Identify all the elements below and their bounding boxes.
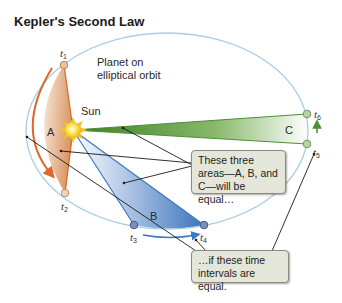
sun-label: Sun (81, 105, 101, 117)
label-t4: t4 (200, 231, 207, 244)
planet-label-line2: elliptical orbit (97, 69, 161, 81)
callout-equal-intervals: …if these time intervals are equal. (191, 250, 289, 283)
planet-t2 (61, 189, 69, 197)
area-b-label: B (150, 210, 157, 222)
label-t6: t6 (314, 108, 321, 121)
planet-t1 (60, 61, 68, 69)
callout-areas-line: areas—A, B, and (198, 167, 279, 180)
callout-areas-line: These three (198, 154, 279, 167)
planet-t4 (200, 221, 208, 229)
planet-t5 (303, 140, 311, 148)
callout-intervals-line: intervals are equal. (198, 267, 282, 293)
label-t2: t2 (61, 200, 68, 213)
label-t5: t5 (313, 146, 320, 159)
planet-label-line1: Planet on (97, 56, 143, 68)
area-c-label: C (285, 124, 293, 136)
label-t1: t1 (60, 47, 67, 60)
diagram-title: Kepler's Second Law (14, 14, 145, 29)
callout-equal-areas: These three areas—A, B, and C—will be eq… (191, 150, 286, 194)
motion-arrow-b (143, 235, 196, 238)
callout-areas-line: C—will be equal… (198, 180, 279, 206)
callout-intervals-line: …if these time (198, 254, 282, 267)
area-a-label: A (47, 126, 55, 138)
planet-t3 (130, 221, 138, 229)
area-c-sector (73, 114, 309, 144)
label-t3: t3 (130, 231, 137, 244)
kepler-diagram: Kepler's Second Law (0, 0, 342, 303)
planet-t6 (303, 110, 311, 118)
